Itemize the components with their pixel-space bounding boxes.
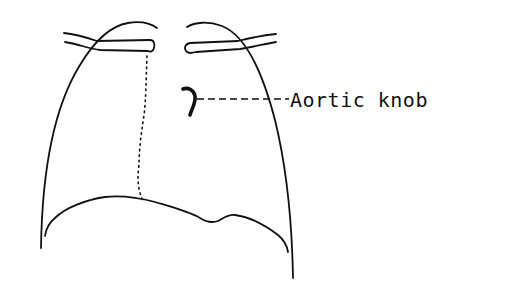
right-chest-wall (187, 23, 293, 278)
chest-diagram (0, 0, 523, 301)
diaphragm (45, 196, 288, 252)
left-clavicle (64, 33, 154, 52)
mediastinal-dotted-line (138, 56, 147, 201)
aortic-knob-label: Aortic knob (290, 88, 428, 112)
right-clavicle (185, 34, 276, 53)
aortic-knob-shape (183, 88, 195, 115)
